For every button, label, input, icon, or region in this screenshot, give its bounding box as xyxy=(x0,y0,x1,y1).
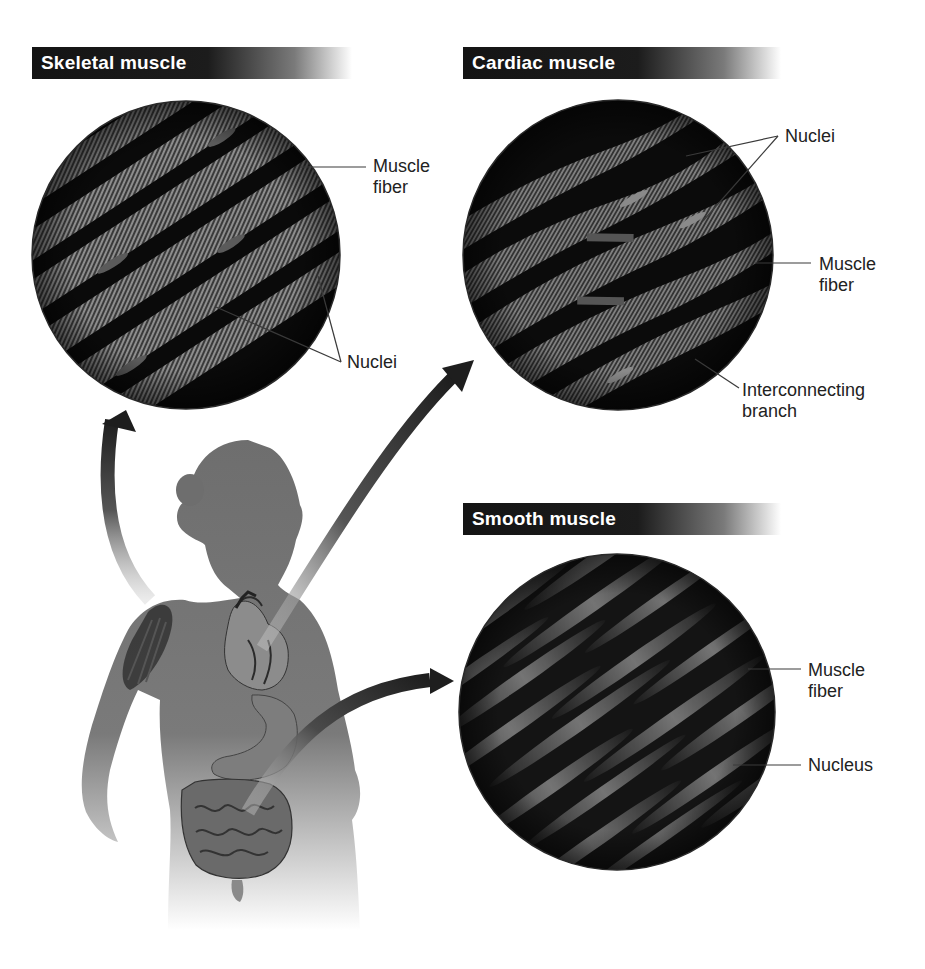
arrow-arm-to-skeletal xyxy=(102,410,150,600)
label-line: Muscle xyxy=(819,254,876,275)
skeletal-muscle-fiber-label: Muscle fiber xyxy=(373,156,430,198)
label-line: Interconnecting xyxy=(742,380,865,401)
smooth-nucleus-label: Nucleus xyxy=(808,755,873,776)
label-line: fiber xyxy=(808,681,865,702)
cardiac-muscle-fiber-label: Muscle fiber xyxy=(819,254,876,296)
skeletal-nuclei-label: Nuclei xyxy=(347,352,397,373)
cardiac-interconnecting-branch-label: Interconnecting branch xyxy=(742,380,865,422)
smooth-muscle-fiber-label: Muscle fiber xyxy=(808,660,865,702)
label-line: fiber xyxy=(819,275,876,296)
label-line: branch xyxy=(742,401,865,422)
cardiac-nuclei-label: Nuclei xyxy=(785,126,835,147)
label-line: Muscle xyxy=(808,660,865,681)
skeletal-micrograph xyxy=(0,12,425,459)
smooth-micrograph xyxy=(356,462,873,953)
label-line: Muscle xyxy=(373,156,430,177)
label-line: fiber xyxy=(373,177,430,198)
